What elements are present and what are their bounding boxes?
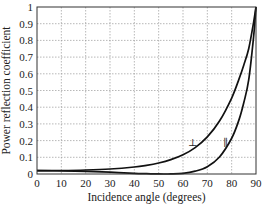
y-tick-label: 0.3 bbox=[19, 118, 33, 130]
y-tick-label: 0.2 bbox=[19, 135, 33, 147]
x-axis-label: Incidence angle (degrees) bbox=[87, 191, 205, 204]
x-tick-label: 20 bbox=[80, 177, 92, 189]
x-tick-label: 40 bbox=[129, 177, 141, 189]
x-tick-label: 0 bbox=[34, 177, 40, 189]
x-tick-label: 80 bbox=[226, 177, 238, 189]
y-tick-label: 0.8 bbox=[19, 34, 33, 46]
x-tick-label: 60 bbox=[178, 177, 190, 189]
fresnel-chart: ⊥∥ 0102030405060708090 00.10.20.30.40.50… bbox=[0, 0, 263, 207]
curve-labels: ⊥∥ bbox=[188, 137, 228, 148]
x-tick-label: 10 bbox=[56, 177, 68, 189]
x-tick-label: 30 bbox=[105, 177, 117, 189]
x-tick-label: 90 bbox=[251, 177, 263, 189]
y-tick-label: 0 bbox=[28, 168, 34, 180]
y-tick-label: 1 bbox=[28, 1, 34, 13]
series-parallel-label: ∥ bbox=[223, 137, 228, 148]
y-tick-label: 0.5 bbox=[19, 85, 33, 97]
x-tick-label: 70 bbox=[202, 177, 214, 189]
y-tick-label: 0.9 bbox=[19, 18, 33, 30]
y-tick-label: 0.6 bbox=[19, 68, 33, 80]
series-perpendicular-label: ⊥ bbox=[188, 137, 197, 148]
x-tick-labels: 0102030405060708090 bbox=[34, 177, 262, 189]
y-tick-labels: 00.10.20.30.40.50.60.70.80.91 bbox=[19, 1, 33, 180]
y-tick-label: 0.7 bbox=[19, 51, 33, 63]
grid bbox=[37, 7, 256, 174]
y-tick-label: 0.1 bbox=[19, 151, 33, 163]
y-axis-label: Power reflection coefficient bbox=[0, 26, 12, 155]
y-tick-label: 0.4 bbox=[19, 101, 33, 113]
x-tick-label: 50 bbox=[153, 177, 165, 189]
